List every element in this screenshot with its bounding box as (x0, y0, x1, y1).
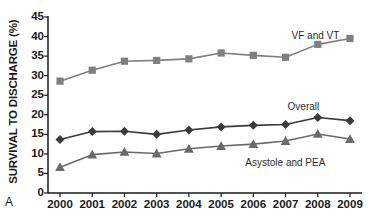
marker-square (153, 57, 160, 64)
series-label-overall: Overall (288, 102, 320, 112)
marker-square (282, 54, 289, 61)
survival-to-discharge-chart: SURVIVAL TO DISCHARGE (%) A 051015202530… (0, 0, 370, 219)
marker-diamond (56, 135, 65, 144)
marker-square (56, 78, 63, 85)
series-vf-and-vt (56, 35, 353, 85)
marker-square (346, 35, 353, 42)
marker-diamond (249, 121, 258, 130)
marker-diamond (346, 116, 355, 125)
marker-square (314, 41, 321, 48)
marker-diamond (313, 113, 322, 122)
marker-square (185, 55, 192, 62)
series-label-asystole-and-pea: Asystole and PEA (245, 158, 325, 168)
marker-diamond (88, 127, 97, 136)
marker-diamond (281, 120, 290, 129)
marker-diamond (184, 126, 193, 135)
marker-diamond (152, 130, 161, 139)
marker-square (89, 67, 96, 74)
marker-square (121, 58, 128, 65)
marker-triangle (313, 129, 323, 138)
marker-square (218, 49, 225, 56)
marker-diamond (217, 122, 226, 131)
series-overall (56, 113, 355, 144)
series-label-vf-and-vt: VF and VT (292, 31, 340, 41)
marker-square (250, 52, 257, 59)
marker-diamond (120, 127, 129, 136)
